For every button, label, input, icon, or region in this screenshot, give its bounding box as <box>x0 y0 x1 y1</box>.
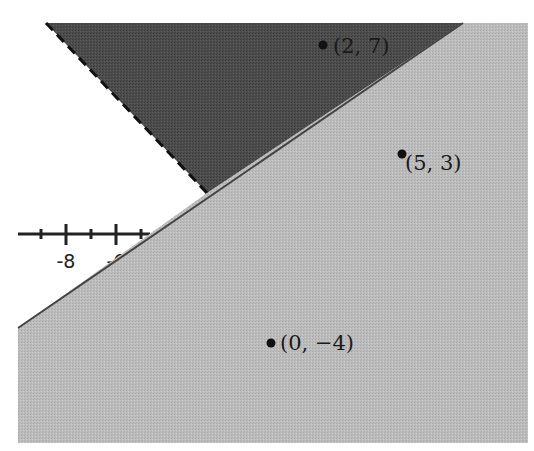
inequality-graph: -8 -6 (2, 7) (5, 3) (0, −4) <box>0 0 534 451</box>
point-marker <box>267 339 276 348</box>
point-0-neg4: (0, −4) <box>267 331 355 355</box>
point-label: (0, −4) <box>280 331 354 355</box>
point-label: (2, 7) <box>333 34 389 58</box>
point-label: (5, 3) <box>405 151 461 175</box>
point-5-3: (5, 3) <box>398 150 462 176</box>
tick-label-neg8: -8 <box>57 250 76 272</box>
point-marker <box>319 41 328 50</box>
